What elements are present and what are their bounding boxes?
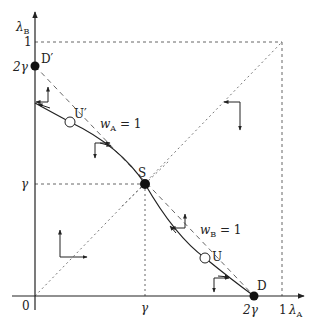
y-tick-gamma: γ (21, 177, 29, 191)
label-wA: wA = 1 (100, 117, 141, 133)
y-tick-2gamma: 2γ (12, 60, 29, 74)
phase-diagram: D′ U′ S U D wA = 1 wB = 1 λB λA 0 1 2γ γ… (0, 0, 318, 322)
y-axis-label: λB (15, 20, 30, 36)
curve-wA (35, 103, 145, 184)
x-tick-1: 1 (279, 303, 287, 317)
point-S (140, 179, 150, 189)
diagonal-dotted (35, 42, 282, 296)
vector-arrow-lower-right (214, 278, 229, 292)
x-tick-gamma: γ (141, 301, 149, 315)
label-wB: wB = 1 (200, 223, 242, 239)
curve-wB (145, 184, 254, 296)
y-tick-1: 1 (24, 35, 32, 49)
label-S: S (138, 166, 146, 180)
x-tick-2gamma: 2γ (242, 303, 259, 317)
origin-label: 0 (22, 299, 30, 313)
label-D: D (257, 279, 267, 293)
label-U: U (212, 250, 222, 264)
point-U (200, 253, 210, 263)
vector-arrow-topleft (36, 87, 48, 102)
vector-arrow-upper-right (224, 102, 240, 130)
point-D-prime (31, 62, 40, 71)
label-D-prime: D′ (41, 52, 54, 66)
x-axis-label: λA (288, 303, 303, 319)
label-U-prime: U′ (74, 107, 87, 121)
vector-arrow-lower-left (60, 230, 87, 257)
